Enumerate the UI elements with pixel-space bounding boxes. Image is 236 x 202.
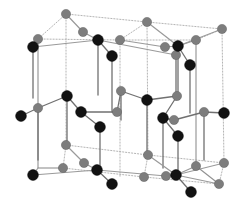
lattice-diagram [0, 0, 236, 202]
crystal-lattice-figure [0, 0, 236, 202]
